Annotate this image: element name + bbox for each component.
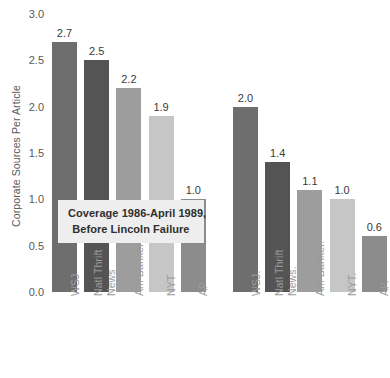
x-axis-tick-label: WSJ. (250, 271, 262, 296)
x-axis-tick-label: AP (197, 282, 209, 296)
x-axis-tick-label: Am Banker (133, 243, 145, 296)
y-axis-tick: 2.5 (14, 54, 44, 66)
bar-value-label: 1.1 (302, 175, 317, 187)
x-axis-tick-label: NYT (165, 275, 177, 296)
x-axis-tick-label: Am Banker. (314, 241, 326, 296)
annotation-box: Coverage 1986-April 1989, Before Lincoln… (58, 200, 204, 243)
x-axis-tick-label: AP. (378, 280, 390, 296)
y-axis-tick: 1.5 (14, 147, 44, 159)
bar-value-label: 1.0 (334, 184, 349, 196)
y-axis-tick: 3.0 (14, 8, 44, 20)
y-axis-tick: 1.0 (14, 193, 44, 205)
bar-value-label: 2.0 (238, 92, 253, 104)
bar-value-label: 2.7 (57, 27, 72, 39)
bar-value-label: 0.6 (367, 221, 382, 233)
bar-slot: 1.9 (149, 14, 174, 292)
bar[interactable] (52, 42, 77, 292)
bar-value-label: 1.4 (270, 147, 285, 159)
bar-value-label: 2.2 (121, 73, 136, 85)
y-axis-tick: 2.0 (14, 101, 44, 113)
bar-value-label: 1.9 (153, 101, 168, 113)
y-axis-tick: 0.5 (14, 240, 44, 252)
x-axis-tick-label: WSJ (69, 274, 81, 296)
bar-slot: 2.0 (233, 14, 258, 292)
bar-slot: 1.0 (181, 14, 206, 292)
annotation-line-2: Before Lincoln Failure (68, 221, 194, 237)
x-axis-tick-label: Natl Thrift (92, 250, 104, 296)
bar-value-label: 2.5 (89, 45, 104, 57)
x-axis-tick-label: Natl Thrift (273, 250, 285, 296)
x-axis-tick-label: News (105, 269, 117, 296)
x-axis-tick-label: NYT. (346, 273, 358, 296)
bar-slot: 0.6 (362, 14, 387, 292)
x-axis-tick-label: News. (286, 266, 298, 296)
bar-value-label: 1.0 (186, 184, 201, 196)
annotation-line-1: Coverage 1986-April 1989, (68, 205, 194, 221)
bar-slot: 2.7 (52, 14, 77, 292)
bar[interactable] (233, 107, 258, 292)
bar-slot: 1.0 (330, 14, 355, 292)
y-axis-tick: 0.0 (14, 286, 44, 298)
